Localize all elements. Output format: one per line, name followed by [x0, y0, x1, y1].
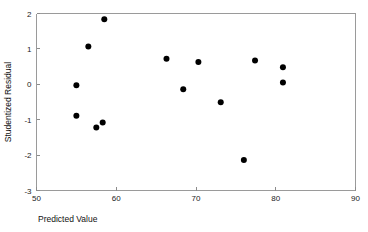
x-tick-label: 80 — [271, 194, 280, 203]
y-axis-title: Studentized Residual — [3, 62, 13, 142]
data-point — [180, 86, 186, 92]
y-tick-label: 0 — [27, 80, 32, 89]
x-axis-ticks: 5060708090 — [32, 187, 360, 203]
data-point — [241, 157, 247, 163]
y-axis-ticks: 210-1-2-3 — [24, 10, 40, 196]
x-tick-label: 50 — [32, 194, 41, 203]
data-point — [280, 64, 286, 70]
data-point — [195, 59, 201, 65]
data-point — [101, 16, 107, 22]
data-point — [93, 124, 99, 130]
data-point — [100, 120, 106, 126]
x-tick-label: 70 — [192, 194, 201, 203]
scatter-plot-figure: 5060708090210-1-2-3Predicted ValueStuden… — [0, 0, 368, 232]
plot-canvas: 5060708090210-1-2-3Predicted ValueStuden… — [0, 0, 368, 232]
y-tick-label: -1 — [24, 116, 32, 125]
data-points-group — [73, 16, 286, 163]
y-tick-label: 1 — [27, 45, 32, 54]
data-point — [73, 113, 79, 119]
y-tick-label: -3 — [24, 187, 32, 196]
x-tick-label: 60 — [112, 194, 121, 203]
data-point — [280, 80, 286, 86]
x-tick-label: 90 — [351, 194, 360, 203]
y-tick-label: -2 — [24, 151, 32, 160]
data-point — [218, 99, 224, 105]
plot-frame — [37, 14, 356, 191]
data-point — [85, 43, 91, 49]
y-tick-label: 2 — [27, 10, 32, 19]
data-point — [252, 58, 258, 64]
data-point — [163, 56, 169, 62]
data-point — [73, 82, 79, 88]
x-axis-title: Predicted Value — [38, 214, 98, 224]
